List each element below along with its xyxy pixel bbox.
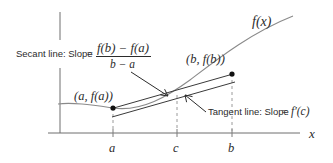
secant-annotation-prefix: Secant line: Slope <box>16 48 93 59</box>
tangent-value: f′(c) <box>291 105 310 118</box>
secant-annotation-equals: = <box>86 47 93 59</box>
function-label: f(x) <box>252 14 272 30</box>
secant-annotation: Secant line: Slope = f(b) − f(a) b − a <box>16 42 151 70</box>
tick-label-a: a <box>109 141 115 155</box>
secant-callout-arrow <box>131 72 168 96</box>
tangent-annotation-equals: = <box>281 105 288 117</box>
tangent-annotation: Tangent line: Slope = f′(c) <box>208 105 310 118</box>
secant-line <box>112 74 233 109</box>
tangent-annotation-prefix: Tangent line: Slope <box>208 106 289 117</box>
point-b-label: (b, f(b)) <box>186 52 225 66</box>
secant-denominator: b − a <box>110 58 135 70</box>
point-marker-b <box>229 71 234 76</box>
diagram-canvas: f(x) x (a, f(a)) (b, f(b)) a c b Secant … <box>0 0 333 163</box>
tick-label-b: b <box>228 141 234 155</box>
point-a-label: (a, f(a)) <box>74 89 113 103</box>
x-axis-label: x <box>308 126 315 141</box>
secant-numerator: f(b) − f(a) <box>97 42 149 55</box>
tangent-callout-arrow <box>185 95 206 112</box>
mean-value-theorem-figure: f(x) x (a, f(a)) (b, f(b)) a c b Secant … <box>0 0 333 163</box>
point-marker-a <box>110 105 115 110</box>
tick-label-c: c <box>173 141 179 155</box>
